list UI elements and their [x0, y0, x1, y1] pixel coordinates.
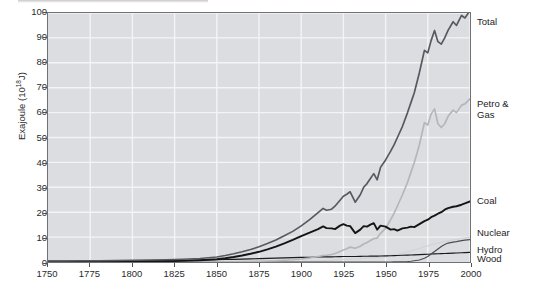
x-tick-label: 1925: [321, 268, 367, 279]
x-tick-label: 2000: [448, 268, 494, 279]
x-tick-label: 1825: [151, 268, 197, 279]
x-tick-mark: [47, 263, 48, 267]
x-tick-label: 1800: [109, 268, 155, 279]
x-tick-mark: [89, 263, 90, 267]
series-label-petro-gas: Petro & Gas: [477, 99, 509, 120]
series-label-nuclear: Nuclear: [477, 228, 510, 239]
x-tick-label: 1875: [236, 268, 282, 279]
plot-canvas: [48, 13, 470, 262]
series-label-coal: Coal: [477, 196, 497, 207]
x-tick-label: 1975: [406, 268, 452, 279]
energy-consumption-chart-figure: Exajoule (1018J) 0102030405060708090100 …: [0, 0, 541, 297]
x-tick-mark: [259, 263, 260, 267]
x-tick-mark: [429, 263, 430, 267]
y-axis: 0102030405060708090100: [10, 0, 47, 297]
series-label-wood: Wood: [477, 254, 502, 265]
grid-lines: [48, 13, 470, 262]
x-tick-mark: [471, 263, 472, 267]
x-tick-label: 1750: [24, 268, 70, 279]
x-tick-mark: [132, 263, 133, 267]
x-tick-label: 1775: [66, 268, 112, 279]
x-tick-mark: [301, 263, 302, 267]
x-tick-mark: [174, 263, 175, 267]
x-tick-label: 1950: [363, 268, 409, 279]
x-tick-label: 1850: [194, 268, 240, 279]
series-label-total: Total: [477, 17, 497, 28]
plot-area: [47, 12, 471, 263]
x-tick-mark: [386, 263, 387, 267]
x-tick-label: 1900: [278, 268, 324, 279]
x-tick-mark: [217, 263, 218, 267]
x-tick-mark: [344, 263, 345, 267]
